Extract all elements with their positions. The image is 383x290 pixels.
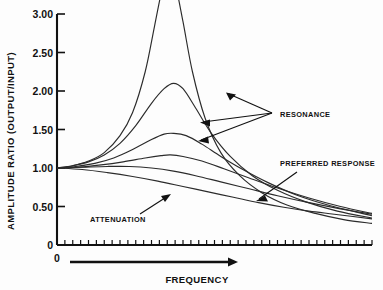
x-origin-label: 0 <box>54 252 60 264</box>
transmissibility-chart: AMPLITUDE RATIO (OUTPUT/INPUT) 3.00 2.50… <box>0 0 383 290</box>
frequency-direction-arrow <box>70 258 238 267</box>
curve-damping-5 <box>57 166 372 214</box>
attenuation-annotation: ATTENUATION <box>90 194 171 224</box>
resonance-annotation: RESONANCE <box>198 93 330 144</box>
y-tick-label: 0 <box>47 239 53 251</box>
y-axis <box>57 14 65 245</box>
curve-damping-3 <box>57 133 372 216</box>
resonance-label: RESONANCE <box>280 110 330 119</box>
curve-damping-6-attenuation <box>57 168 372 219</box>
y-tick-labels: 3.00 2.50 2.00 1.50 1.00 0.50 0 <box>33 8 54 251</box>
y-tick-label: 2.50 <box>33 47 54 59</box>
chart-figure: AMPLITUDE RATIO (OUTPUT/INPUT) 3.00 2.50… <box>0 0 383 290</box>
x-axis <box>57 240 372 245</box>
y-tick-label: 3.00 <box>33 8 54 20</box>
y-tick-label: 0.50 <box>33 201 54 213</box>
y-tick-label: 1.50 <box>33 124 54 136</box>
x-axis-title: FREQUENCY <box>165 274 229 285</box>
y-tick-label: 1.00 <box>33 162 54 174</box>
y-axis-title: AMPLITUDE RATIO (OUTPUT/INPUT) <box>5 52 16 230</box>
curve-damping-2 <box>57 83 372 218</box>
attenuation-label: ATTENUATION <box>90 215 146 224</box>
y-tick-label: 2.00 <box>33 85 54 97</box>
preferred-response-label: PREFERRED RESPONSE <box>280 159 375 168</box>
